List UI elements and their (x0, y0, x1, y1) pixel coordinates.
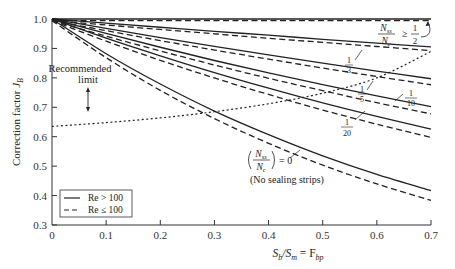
svg-text:20: 20 (343, 129, 351, 138)
y-tick-label: 0.4 (33, 190, 47, 202)
label-no-sealing-strips: Nss Nc = 0 (No sealing strips) (249, 149, 324, 186)
chart: 00.10.20.30.40.50.60.7 0.30.40.50.60.70.… (0, 0, 455, 269)
double-arrow-icon (86, 87, 90, 112)
x-tick-label: 0.5 (316, 229, 330, 241)
svg-text:3: 3 (347, 66, 351, 75)
svg-text:1: 1 (345, 118, 349, 127)
label-one-twentieth: 1 20 (341, 111, 365, 138)
curve-dashed (52, 21, 431, 85)
svg-text:2: 2 (413, 36, 418, 46)
svg-text:1: 1 (413, 23, 418, 33)
curve-dashed (52, 21, 431, 51)
label-half: Nss Nc ≥ 1 2 (378, 21, 430, 47)
x-tick-label: 0.4 (262, 229, 276, 241)
x-axis-label: Sb/Sm = Fbp (272, 247, 323, 262)
x-tick-label: 0.3 (208, 229, 222, 241)
x-tick-label: 0.6 (370, 229, 384, 241)
curves (52, 19, 431, 200)
y-tick-label: 0.6 (33, 131, 47, 143)
x-axis-ticks: 00.10.20.30.40.50.60.7 (49, 220, 438, 241)
y-tick-label: 1.0 (33, 13, 47, 25)
recommended-limit-annotation: Recommended limit (49, 63, 113, 112)
svg-text:10: 10 (407, 99, 415, 108)
svg-text:Recommended: Recommended (49, 63, 113, 74)
svg-text:Nc: Nc (255, 162, 265, 173)
y-axis-label: Correction factor JB (10, 78, 25, 166)
svg-text:Nc: Nc (380, 36, 390, 47)
svg-text:≥: ≥ (402, 28, 408, 39)
svg-text:limit: limit (78, 74, 98, 85)
x-tick-label: 0.2 (153, 229, 167, 241)
svg-text:1: 1 (409, 89, 413, 98)
svg-text:1: 1 (360, 85, 364, 94)
x-tick-label: 0 (49, 229, 55, 241)
y-tick-label: 0.3 (33, 219, 47, 231)
label-one-tenth: 1 10 (395, 89, 417, 108)
y-tick-label: 0.7 (33, 101, 47, 113)
y-tick-label: 0.8 (33, 72, 47, 84)
svg-text:= 0: = 0 (279, 155, 292, 166)
x-tick-label: 0.7 (424, 229, 438, 241)
label-one-third: 1 3 (345, 50, 362, 75)
y-tick-label: 0.9 (33, 42, 47, 54)
legend: Re > 100 Re ≤ 100 (60, 190, 132, 217)
legend-dashed-label: Re ≤ 100 (88, 205, 123, 215)
svg-text:1: 1 (347, 56, 351, 65)
x-tick-label: 0.1 (99, 229, 113, 241)
curve-solid (52, 19, 431, 191)
y-tick-label: 0.5 (33, 160, 47, 172)
svg-text:5: 5 (360, 95, 364, 104)
svg-text:(No sealing strips): (No sealing strips) (250, 174, 324, 186)
svg-text:Nss: Nss (254, 149, 267, 160)
y-axis-ticks: 0.30.40.50.60.70.80.91.0 (33, 13, 57, 231)
curve-dashed (52, 21, 431, 138)
svg-text:Nss: Nss (379, 23, 392, 34)
legend-solid-label: Re > 100 (88, 193, 123, 203)
